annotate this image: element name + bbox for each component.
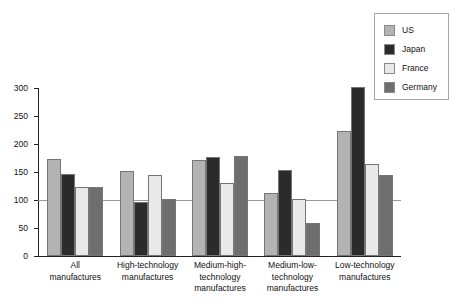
bar-japan	[278, 170, 292, 256]
bar-germany	[379, 175, 393, 256]
legend-label: France	[402, 64, 428, 73]
legend-item-france: France	[384, 59, 448, 78]
plot-area: 300250200150100500	[38, 88, 401, 256]
legend-item-japan: Japan	[384, 40, 448, 59]
x-axis-label: Medium-high-technologymanufactures	[184, 260, 256, 295]
y-tick-label: 250	[14, 112, 28, 121]
legend-label: Germany	[402, 83, 437, 92]
bar-japan	[206, 157, 220, 256]
bar-group	[184, 88, 256, 256]
bar-japan	[134, 202, 148, 256]
x-axis-label: Allmanufactures	[39, 260, 111, 295]
x-axis-label-line: manufactures	[331, 272, 399, 284]
y-tick-label: 300	[14, 84, 28, 93]
legend-label: US	[402, 26, 414, 35]
chart-screenshot: 300250200150100500 AllmanufacturesHigh-t…	[0, 0, 459, 307]
bar-france	[75, 187, 89, 256]
bar-us	[47, 159, 61, 256]
bar-us	[192, 160, 206, 256]
legend-label: Japan	[402, 45, 425, 54]
bar-france	[292, 199, 306, 256]
x-axis-label-line: manufactures	[41, 272, 109, 284]
bar-group	[329, 88, 401, 256]
y-tick-mark	[34, 116, 38, 117]
bar-japan	[351, 87, 365, 256]
x-axis-label-line: technology	[186, 272, 254, 284]
bar-us	[120, 171, 134, 256]
bar-germany	[306, 223, 320, 256]
y-tick-label: 100	[14, 196, 28, 205]
bar-group	[256, 88, 328, 256]
legend-swatch-us	[384, 25, 395, 36]
bar-group	[39, 88, 111, 256]
x-axis-line	[38, 256, 401, 257]
y-tick-label: 0	[23, 252, 28, 261]
bar-france	[365, 164, 379, 256]
x-axis-label-line: technology	[258, 272, 326, 284]
bar-germany	[234, 156, 248, 256]
legend-swatch-france	[384, 63, 395, 74]
y-tick-mark	[34, 172, 38, 173]
bar-france	[148, 175, 162, 256]
x-axis-label-line: Medium-high-	[186, 260, 254, 272]
x-axis-label: Low-technologymanufactures	[329, 260, 401, 295]
legend-swatch-germany	[384, 82, 395, 93]
x-axis-label: High-technologymanufactures	[111, 260, 183, 295]
x-axis-label-line: Medium-low-	[258, 260, 326, 272]
y-tick-label: 50	[19, 224, 28, 233]
x-axis-label-line: manufactures	[258, 283, 326, 295]
legend-item-germany: Germany	[384, 78, 448, 97]
legend-item-us: US	[384, 21, 448, 40]
y-tick-mark	[34, 256, 38, 257]
y-tick-mark	[34, 144, 38, 145]
x-axis-label: Medium-low-technologymanufactures	[256, 260, 328, 295]
x-axis-label-line: Low-technology	[331, 260, 399, 272]
y-tick-label: 150	[14, 168, 28, 177]
x-axis-label-line: manufactures	[113, 272, 181, 284]
bar-japan	[61, 174, 75, 256]
bar-us	[264, 193, 278, 256]
bar-germany	[89, 187, 103, 256]
chart-legend: USJapanFranceGermany	[374, 13, 449, 100]
x-axis-labels: AllmanufacturesHigh-technologymanufactur…	[39, 260, 401, 295]
bar-germany	[162, 199, 176, 256]
bar-us	[337, 131, 351, 256]
bar-groups	[39, 88, 401, 256]
x-axis-label-line: High-technology	[113, 260, 181, 272]
bar-group	[111, 88, 183, 256]
x-axis-label-line: All	[41, 260, 109, 272]
y-tick-mark	[34, 228, 38, 229]
y-tick-label: 200	[14, 140, 28, 149]
y-tick-mark	[34, 88, 38, 89]
x-axis-label-line: manufactures	[186, 283, 254, 295]
legend-swatch-japan	[384, 44, 395, 55]
bar-france	[220, 183, 234, 256]
